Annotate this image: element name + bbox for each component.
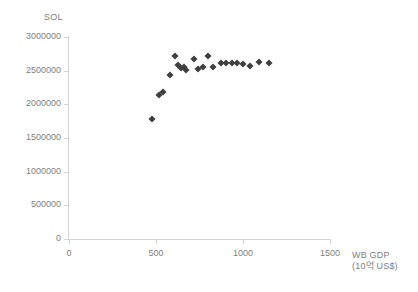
x-tick-mark [69,239,70,244]
x-axis-line [68,239,331,240]
y-tick-label: 0 [3,233,61,243]
x-axis-title-unit: (10억 US$) [352,261,398,272]
y-tick-label: 500000 [3,199,61,209]
x-tick-mark [330,239,331,244]
y-tick-label: 1000000 [3,166,61,176]
x-tick-mark [156,239,157,244]
y-tick-label: 2500000 [3,65,61,75]
x-tick-label: 1000 [223,248,263,258]
y-tick-label: 3000000 [3,31,61,41]
x-axis-title-main: WB GDP [352,250,398,261]
x-tick-label: 0 [49,248,89,258]
x-tick-mark [243,239,244,244]
scatter-chart: SOL WB GDP (10억 US$) 0500000100000015000… [0,0,418,292]
x-tick-label: 1500 [310,248,350,258]
x-axis-title: WB GDP (10억 US$) [352,250,398,272]
y-tick-label: 2000000 [3,98,61,108]
y-axis-title: SOL [44,12,63,22]
x-tick-label: 500 [136,248,176,258]
y-tick-label: 1500000 [3,132,61,142]
